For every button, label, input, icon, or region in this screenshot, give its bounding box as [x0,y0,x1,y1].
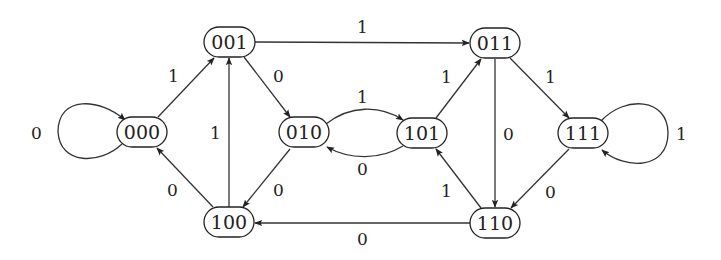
edge-011-111 [510,58,569,118]
edge-label-011-111: 1 [545,67,556,87]
edge-100-000 [157,148,213,207]
edge-label-111-110: 0 [545,182,556,202]
edge-000-001 [158,58,214,117]
edge-label-101-011: 1 [441,67,452,87]
edge-label-111-111: 1 [676,124,687,144]
edge-label-100-001: 1 [210,123,221,143]
edge-label-001-010: 0 [273,66,284,86]
edge-label-110-100: 0 [357,229,368,249]
node-100-label: 100 [211,211,247,233]
node-110: 110 [470,208,520,238]
node-100: 100 [204,207,254,237]
edge-010-101 [326,109,403,124]
node-011-label: 011 [477,32,513,54]
edge-111-110 [511,149,569,208]
node-111-label: 111 [565,122,601,144]
node-011: 011 [470,28,520,58]
node-010-label: 010 [286,121,322,143]
edge-label-010-100: 0 [273,180,284,200]
edge-label-100-000: 0 [167,180,178,200]
edge-label-011-110: 0 [503,124,514,144]
node-101-label: 101 [404,122,440,144]
node-101: 101 [397,118,447,148]
state-diagram: 0 1 0 1 0 1 0 1 0 1 1 0 1 0 1 0 000 [0,0,721,260]
edge-101-010 [327,146,403,157]
edge-label-110-101: 1 [441,181,452,201]
edge-label-010-101: 1 [357,87,368,107]
node-001: 001 [204,27,255,57]
node-111: 111 [558,118,608,148]
node-001-label: 001 [211,31,247,53]
edge-000-000 [58,104,125,159]
edge-label-001-011: 1 [357,17,368,37]
edge-001-011 [255,42,469,43]
node-000: 000 [117,117,167,147]
node-110-label: 110 [477,212,513,234]
edge-label-101-010: 0 [357,159,368,179]
edge-111-111 [601,104,668,164]
node-000-label: 000 [124,121,160,143]
node-010: 010 [279,117,329,147]
edge-label-000-000: 0 [31,123,42,143]
edge-label-000-001: 1 [168,66,179,86]
